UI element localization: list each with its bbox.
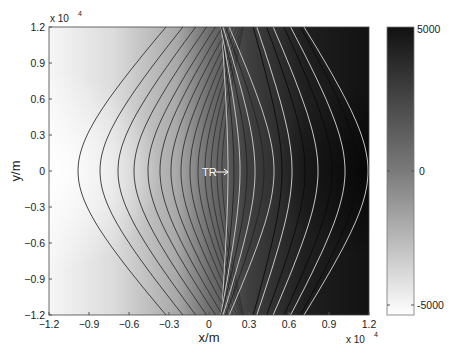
svg-text:x 10: x 10 — [346, 334, 365, 345]
y-tick-label: −1.2 — [24, 309, 45, 321]
y-axis: 1.20.90.60.30−0.3−0.6−0.9−1.2 — [24, 21, 52, 321]
y-tick-label: −0.6 — [24, 237, 45, 249]
x-tick-label: 0.3 — [242, 318, 257, 330]
svg-text:x 10: x 10 — [50, 13, 69, 24]
svg-text:4: 4 — [78, 10, 82, 17]
x-tick-label: 0 — [206, 318, 212, 330]
x-tick-label: −0.9 — [79, 318, 100, 330]
colorbar-tick-min: -5000 — [417, 299, 444, 311]
x-axis-label: x/m — [199, 330, 220, 345]
x-tick-label: −0.6 — [119, 318, 140, 330]
y-tick-label: 0.3 — [30, 129, 45, 141]
y-tick-label: 1.2 — [30, 21, 45, 33]
y-axis-label: y/m — [8, 161, 23, 182]
y-tick-label: 0.9 — [30, 57, 45, 69]
x-tick-label: −0.3 — [159, 318, 180, 330]
y-scale-multiplier: x 10 4 — [50, 10, 82, 24]
x-tick-label: 0.9 — [322, 318, 337, 330]
x-tick-label: 1.2 — [362, 318, 377, 330]
colorbar: 5000 0 -5000 — [387, 23, 444, 315]
y-tick-label: −0.9 — [24, 273, 45, 285]
x-tick-label: 0.6 — [282, 318, 297, 330]
contour-chart: −1.2−0.9−0.6−0.300.30.60.91.2 1.20.90.60… — [0, 0, 457, 355]
svg-text:TR: TR — [202, 166, 217, 178]
colorbar-tick-max: 5000 — [417, 23, 441, 35]
y-tick-label: −0.3 — [24, 201, 45, 213]
x-scale-multiplier: x 10 4 — [346, 331, 378, 345]
y-tick-label: 0 — [39, 165, 45, 177]
y-tick-label: 0.6 — [30, 93, 45, 105]
svg-text:4: 4 — [374, 331, 378, 338]
colorbar-tick-zero: 0 — [419, 165, 425, 177]
